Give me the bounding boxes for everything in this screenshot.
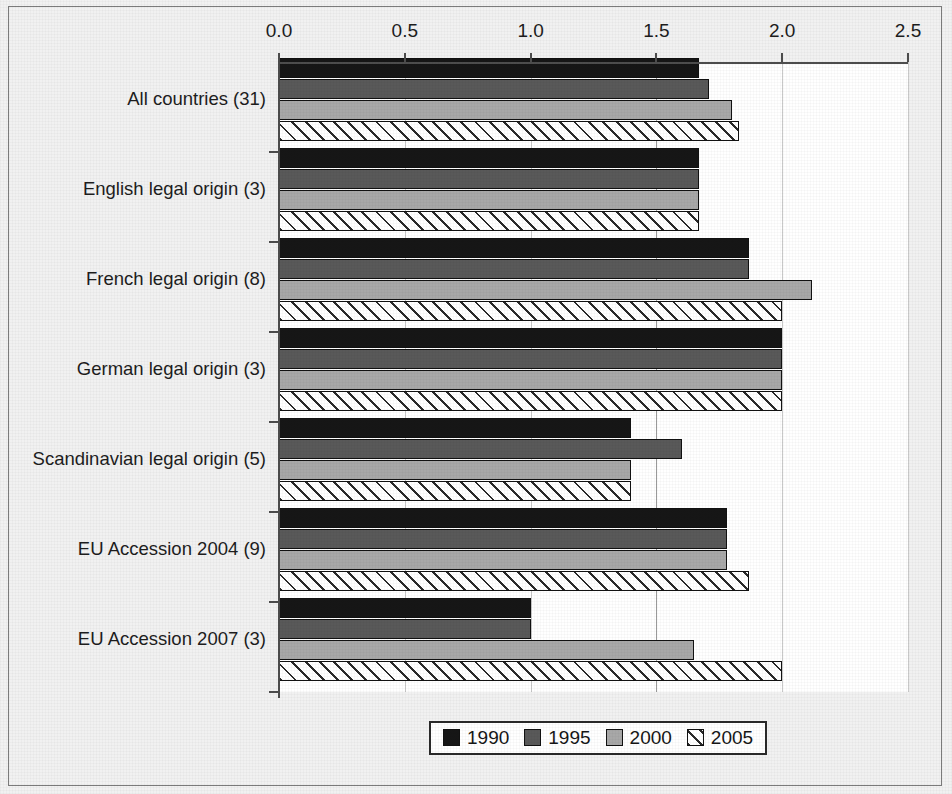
legend-item-1990[interactable]: 1990 xyxy=(443,728,509,747)
bar-2005-6 xyxy=(279,661,782,681)
y-tick xyxy=(269,421,279,423)
x-tick xyxy=(278,53,280,62)
bar-1995-3 xyxy=(279,349,782,369)
x-tick xyxy=(530,53,532,62)
x-tick xyxy=(781,53,783,62)
category-label: English legal origin (3) xyxy=(83,178,266,200)
x-tick xyxy=(404,53,406,62)
bar-2000-4 xyxy=(279,460,631,480)
category-axis-labels: All countries (31)English legal origin (… xyxy=(0,62,266,692)
category-label: EU Accession 2004 (9) xyxy=(78,538,266,560)
legend-label: 2005 xyxy=(711,728,753,747)
bar-1995-5 xyxy=(279,529,727,549)
gridline xyxy=(908,62,909,692)
legend-item-2005[interactable]: 2005 xyxy=(687,728,753,747)
legend-swatch-icon xyxy=(443,729,460,746)
bar-2000-5 xyxy=(279,550,727,570)
category-label: All countries (31) xyxy=(127,88,266,110)
y-tick xyxy=(269,691,279,693)
category-label: Scandinavian legal origin (5) xyxy=(33,448,266,470)
bar-1995-1 xyxy=(279,169,699,189)
x-tick-label: 1.0 xyxy=(517,20,543,42)
legend-swatch-icon xyxy=(687,729,704,746)
bar-2000-1 xyxy=(279,190,699,210)
bar-1990-1 xyxy=(279,148,699,168)
bar-1995-6 xyxy=(279,619,531,639)
x-tick-label: 2.5 xyxy=(895,20,921,42)
legend-label: 1990 xyxy=(467,728,509,747)
y-tick xyxy=(269,151,279,153)
x-axis-line xyxy=(279,62,908,64)
bar-2005-3 xyxy=(279,391,782,411)
bar-2005-4 xyxy=(279,481,631,501)
bar-2000-6 xyxy=(279,640,694,660)
plot-area: 0.00.51.01.52.02.5 xyxy=(279,62,908,692)
bar-1990-2 xyxy=(279,238,749,258)
bar-2005-2 xyxy=(279,301,782,321)
bar-1990-6 xyxy=(279,598,531,618)
bar-2000-2 xyxy=(279,280,812,300)
y-tick xyxy=(269,241,279,243)
chart-page: All countries (31)English legal origin (… xyxy=(0,0,952,794)
bar-1995-2 xyxy=(279,259,749,279)
bar-1990-5 xyxy=(279,508,727,528)
y-tick xyxy=(269,331,279,333)
legend-item-2000[interactable]: 2000 xyxy=(606,728,672,747)
x-tick-label: 0.5 xyxy=(392,20,418,42)
bar-2005-5 xyxy=(279,571,749,591)
bar-2005-1 xyxy=(279,211,699,231)
x-tick xyxy=(907,53,909,62)
bar-1990-4 xyxy=(279,418,631,438)
legend-swatch-icon xyxy=(606,729,623,746)
legend-label: 1995 xyxy=(548,728,590,747)
x-tick-label: 2.0 xyxy=(769,20,795,42)
y-tick xyxy=(269,601,279,603)
y-tick xyxy=(269,511,279,513)
bar-1990-3 xyxy=(279,328,782,348)
bar-1995-0 xyxy=(279,79,709,99)
bar-1995-4 xyxy=(279,439,682,459)
category-label: EU Accession 2007 (3) xyxy=(78,628,266,650)
x-tick xyxy=(655,53,657,62)
legend-swatch-icon xyxy=(524,729,541,746)
category-label: French legal origin (8) xyxy=(86,268,266,290)
chart-legend: 1990199520002005 xyxy=(429,721,767,755)
bar-2005-0 xyxy=(279,121,739,141)
x-tick-label: 1.5 xyxy=(643,20,669,42)
bar-2000-0 xyxy=(279,100,732,120)
bar-1990-0 xyxy=(279,58,699,78)
legend-item-1995[interactable]: 1995 xyxy=(524,728,590,747)
category-label: German legal origin (3) xyxy=(77,358,266,380)
x-tick-label: 0.0 xyxy=(266,20,292,42)
legend-label: 2000 xyxy=(630,728,672,747)
bar-2000-3 xyxy=(279,370,782,390)
gridline xyxy=(782,62,783,692)
